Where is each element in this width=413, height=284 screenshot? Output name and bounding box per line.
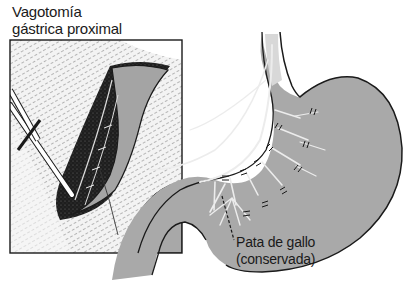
callout-line-2: (conservada) [236,251,315,268]
crow-foot-callout: Pata de gallo (conservada) [236,234,315,268]
callout-line-1: Pata de gallo [236,234,315,251]
title-line-2: gástrica proximal [12,20,122,37]
vagotomy-illustration [0,0,413,284]
figure-title: Vagotomía gástrica proximal [12,3,122,37]
title-line-1: Vagotomía [12,3,122,20]
